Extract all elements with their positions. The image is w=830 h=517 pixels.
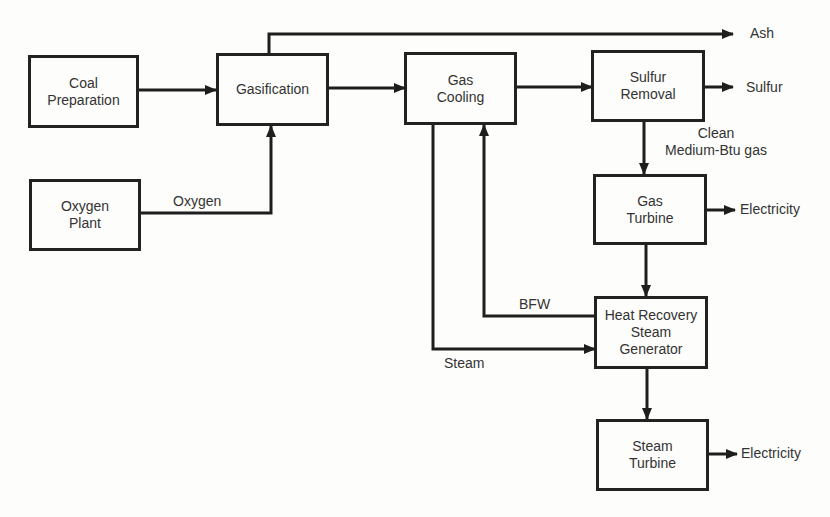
node-label: Sulfur Removal — [620, 69, 675, 103]
node-label: Gas Turbine — [627, 193, 674, 227]
label-electricity-steam-turbine: Electricity — [741, 445, 801, 462]
node-label: Coal Preparation — [47, 75, 119, 109]
node-label: Gas Cooling — [437, 72, 484, 106]
node-label: Heat Recovery Steam Generator — [605, 307, 698, 358]
label-ash: Ash — [750, 25, 774, 42]
label-oxygen: Oxygen — [173, 193, 221, 210]
node-steam-turbine: Steam Turbine — [596, 419, 709, 491]
node-label: Steam Turbine — [629, 438, 676, 472]
node-label: Gasification — [236, 81, 309, 98]
node-gas-cooling: Gas Cooling — [404, 52, 517, 125]
label-sulfur: Sulfur — [746, 79, 783, 96]
label-electricity-gas-turbine: Electricity — [740, 201, 800, 218]
label-bfw: BFW — [519, 296, 550, 313]
node-gasification: Gasification — [216, 53, 329, 126]
arrow-bfw-to-gas-cooling — [484, 125, 595, 316]
label-steam: Steam — [444, 355, 484, 372]
label-clean-medium-btu-gas: Clean Medium-Btu gas — [665, 125, 767, 159]
node-coal-preparation: Coal Preparation — [28, 55, 139, 128]
node-gas-turbine: Gas Turbine — [593, 174, 707, 245]
node-label: Oxygen Plant — [61, 198, 109, 232]
node-sulfur-removal: Sulfur Removal — [591, 50, 705, 122]
node-heat-recovery-steam-generator: Heat Recovery Steam Generator — [594, 296, 708, 369]
node-oxygen-plant: Oxygen Plant — [29, 179, 141, 251]
